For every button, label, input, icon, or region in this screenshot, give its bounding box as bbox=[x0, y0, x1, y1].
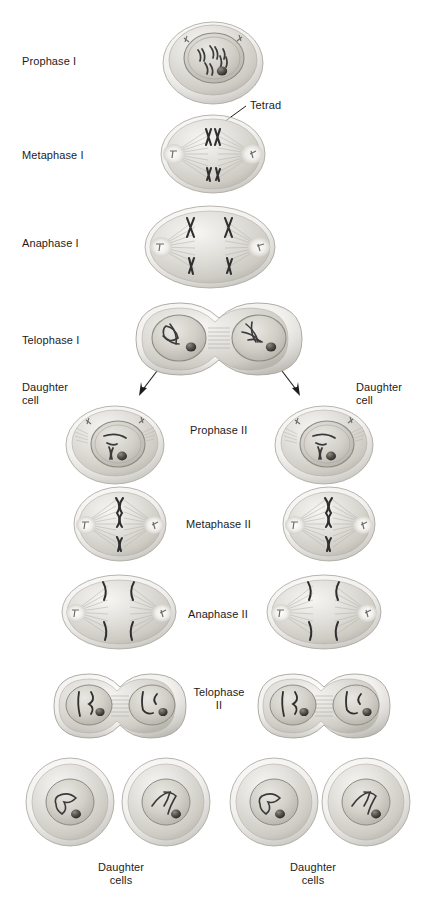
cell-metaphase-1 bbox=[158, 112, 268, 196]
cell-telophase-1 bbox=[130, 296, 308, 382]
cell-telophase-2-left bbox=[49, 668, 191, 744]
cell-anaphase-1 bbox=[143, 204, 277, 290]
daughter-cell-2 bbox=[120, 756, 212, 848]
daughter-cell-1 bbox=[24, 756, 116, 848]
daughter-cell-3 bbox=[228, 756, 320, 848]
cell-anaphase-2-left bbox=[60, 572, 178, 652]
daughter-cell-4 bbox=[320, 756, 412, 848]
cell-prophase-1 bbox=[160, 16, 266, 106]
cell-metaphase-2-right bbox=[281, 485, 377, 563]
cell-telophase-2-right bbox=[253, 668, 395, 744]
cell-metaphase-2-left bbox=[72, 485, 168, 563]
meiosis-diagram: Prophase I Metaphase I Anaphase I Teloph… bbox=[0, 0, 439, 898]
cell-anaphase-2-right bbox=[265, 572, 383, 652]
cell-prophase-2-right bbox=[273, 400, 375, 486]
cell-prophase-2-left bbox=[64, 400, 166, 486]
